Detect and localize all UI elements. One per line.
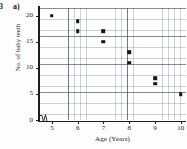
data-point bbox=[153, 77, 157, 81]
data-point bbox=[127, 61, 131, 65]
axis-break-icon bbox=[39, 113, 51, 123]
data-point bbox=[50, 14, 54, 18]
question-number: 3 bbox=[0, 2, 3, 11]
data-point bbox=[76, 30, 80, 34]
y-tick-label: 15 bbox=[19, 37, 33, 45]
y-tick-label: 5 bbox=[19, 89, 33, 97]
y-axis-line bbox=[38, 6, 39, 122]
data-point bbox=[102, 30, 106, 34]
x-tick-label: 9 bbox=[148, 124, 162, 132]
x-tick-label: 5 bbox=[45, 124, 59, 132]
x-axis-line bbox=[38, 121, 186, 122]
y-tick bbox=[36, 16, 39, 17]
data-point bbox=[127, 50, 131, 54]
y-tick bbox=[36, 68, 39, 69]
data-point bbox=[153, 82, 157, 86]
plot-area bbox=[39, 8, 186, 120]
y-tick bbox=[36, 42, 39, 43]
y-tick-label: 0 bbox=[19, 116, 33, 124]
x-tick-label: 6 bbox=[71, 124, 85, 132]
y-tick bbox=[36, 120, 39, 121]
scatter-plot-figure: 3 a) No. of baby teeth 5678910 05101520 … bbox=[0, 0, 187, 149]
grid-major bbox=[39, 8, 186, 120]
y-tick-label: 20 bbox=[19, 11, 33, 19]
x-axis-title: Age (Years) bbox=[39, 135, 186, 143]
data-point bbox=[76, 19, 80, 23]
question-part-label: a) bbox=[13, 2, 20, 11]
x-tick-label: 10 bbox=[174, 124, 187, 132]
x-tick-label: 8 bbox=[122, 124, 136, 132]
data-point bbox=[102, 40, 106, 44]
y-tick bbox=[36, 94, 39, 95]
x-tick-label: 7 bbox=[96, 124, 110, 132]
y-tick-label: 10 bbox=[19, 63, 33, 71]
data-point bbox=[179, 92, 183, 96]
